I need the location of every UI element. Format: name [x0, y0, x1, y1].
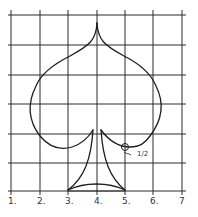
spade-stem-right — [101, 130, 125, 190]
annotation: 1/2 — [122, 144, 149, 159]
annotation-label: 1/2 — [137, 150, 148, 158]
x-axis-label: 4. — [94, 196, 103, 206]
spade-diagram: 1/2 1.2.3.4.5.6.7 — [0, 0, 198, 217]
x-axis-label: 6. — [150, 196, 159, 206]
spade-body-curve-right — [97, 23, 161, 147]
spade-outline — [30, 23, 161, 191]
x-axis-label: 3. — [65, 196, 74, 206]
x-axis-labels: 1.2.3.4.5.6.7 — [8, 196, 185, 206]
x-axis-label: 7 — [179, 196, 185, 206]
x-axis-label: 1. — [8, 196, 17, 206]
x-axis-label: 5. — [122, 196, 131, 206]
spade-stem-left — [68, 130, 93, 190]
x-axis-label: 2. — [37, 196, 46, 206]
grid — [8, 10, 186, 195]
